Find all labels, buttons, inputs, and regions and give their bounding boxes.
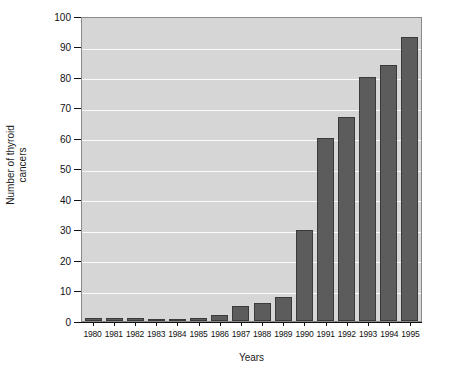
- x-axis-tick-label-1981: 1981: [103, 329, 124, 343]
- x-axis-tick-labels: 1980198119821983198419851986198719881989…: [82, 329, 421, 343]
- bar-1989: [275, 297, 292, 321]
- x-axis-tick-mark-1994: [379, 322, 400, 328]
- x-axis-tick-mark-1992: [336, 322, 357, 328]
- y-axis-tick-label: 40: [60, 195, 71, 206]
- bar-series: [82, 18, 421, 321]
- bar-1983: [148, 319, 165, 321]
- x-axis-tick-mark-1983: [146, 322, 167, 328]
- bar-slot-1994: [378, 18, 399, 321]
- bar-slot-1984: [167, 18, 188, 321]
- y-axis-tick-20: 20: [60, 255, 81, 267]
- y-axis-tick-label: 90: [60, 42, 71, 53]
- x-axis-tick-label-1983: 1983: [146, 329, 167, 343]
- x-axis-tick-label-1980: 1980: [82, 329, 103, 343]
- y-axis-tick-mark: [74, 169, 81, 170]
- x-axis-tick-label-1991: 1991: [315, 329, 336, 343]
- bar-slot-1987: [230, 18, 251, 321]
- x-axis-tick-mark-1985: [188, 322, 209, 328]
- bar-1991: [317, 138, 334, 321]
- bar-1982: [127, 318, 144, 321]
- x-axis-tick-label-1982: 1982: [124, 329, 145, 343]
- y-axis-tick-80: 80: [60, 72, 81, 84]
- bar-1984: [169, 319, 186, 321]
- x-axis-tick-label-1990: 1990: [294, 329, 315, 343]
- x-axis-tick-label-1995: 1995: [400, 329, 421, 343]
- y-axis-tick-label: 80: [60, 73, 71, 84]
- bar-1987: [232, 306, 249, 321]
- y-axis-tick-30: 30: [60, 225, 81, 237]
- x-axis-tick-mark-1987: [230, 322, 251, 328]
- x-axis-tick-mark-1988: [252, 322, 273, 328]
- y-axis-tick-90: 90: [60, 42, 81, 54]
- x-axis-tick-label-1986: 1986: [209, 329, 230, 343]
- x-axis-tick-label-1985: 1985: [188, 329, 209, 343]
- y-axis-tick-label: 70: [60, 103, 71, 114]
- y-axis-tick-label: 10: [60, 286, 71, 297]
- bar-slot-1989: [273, 18, 294, 321]
- bar-1980: [85, 318, 102, 321]
- y-axis-tick-mark: [74, 47, 81, 48]
- y-axis-tick-label: 30: [60, 225, 71, 236]
- bar-slot-1988: [252, 18, 273, 321]
- y-axis-tick-100: 100: [54, 11, 81, 23]
- y-axis-tick-mark: [74, 200, 81, 201]
- y-axis-title: Number of thyroid cancers: [0, 0, 34, 330]
- y-axis-tick-mark: [74, 230, 81, 231]
- bar-slot-1981: [104, 18, 125, 321]
- bar-1985: [190, 318, 207, 321]
- x-axis-tick-mark-1989: [273, 322, 294, 328]
- x-axis-tick-mark-1984: [167, 322, 188, 328]
- y-axis-tick-mark: [74, 108, 81, 109]
- bar-slot-1995: [399, 18, 420, 321]
- bar-slot-1983: [146, 18, 167, 321]
- bar-1988: [254, 303, 271, 321]
- bar-slot-1993: [357, 18, 378, 321]
- bar-slot-1991: [315, 18, 336, 321]
- y-axis-title-line1: Number of thyroid: [5, 125, 16, 204]
- y-axis-tick-labels: 0102030405060708090100: [34, 17, 81, 322]
- y-axis-tick-70: 70: [60, 103, 81, 115]
- y-axis-tick-60: 60: [60, 133, 81, 145]
- bar-1986: [211, 315, 228, 321]
- x-axis-tick-label-1987: 1987: [230, 329, 251, 343]
- bar-1990: [296, 230, 313, 322]
- y-axis-tick-label: 60: [60, 134, 71, 145]
- x-axis-ticks: [82, 322, 421, 328]
- y-axis-title-line2: cancers: [17, 125, 29, 204]
- x-axis-tick-mark-1980: [82, 322, 103, 328]
- x-axis-tick-mark-1990: [294, 322, 315, 328]
- y-axis-tick-label: 100: [54, 12, 71, 23]
- bar-slot-1982: [125, 18, 146, 321]
- x-axis-tick-label-1988: 1988: [252, 329, 273, 343]
- y-axis-tick-10: 10: [60, 286, 81, 298]
- plot-area: [81, 17, 422, 322]
- bar-slot-1980: [83, 18, 104, 321]
- x-axis-tick-label-1989: 1989: [273, 329, 294, 343]
- bar-chart-figure: Number of thyroid cancers 01020304050607…: [0, 0, 457, 382]
- bar-1981: [106, 318, 123, 321]
- y-axis-tick-mark: [74, 78, 81, 79]
- y-axis-tick-mark: [74, 17, 81, 18]
- y-axis-tick-label: 50: [60, 164, 71, 175]
- bar-1993: [359, 77, 376, 321]
- x-axis-tick-mark-1986: [209, 322, 230, 328]
- y-axis-tick-mark: [74, 261, 81, 262]
- bar-1992: [338, 117, 355, 321]
- bar-slot-1990: [294, 18, 315, 321]
- bar-slot-1985: [188, 18, 209, 321]
- x-axis-tick-mark-1982: [124, 322, 145, 328]
- x-axis-tick-label-1993: 1993: [357, 329, 378, 343]
- y-axis-tick-50: 50: [60, 164, 81, 176]
- y-axis-tick-mark: [74, 139, 81, 140]
- bar-1994: [380, 65, 397, 321]
- y-axis-tick-label: 0: [65, 317, 71, 328]
- x-axis-tick-mark-1991: [315, 322, 336, 328]
- x-axis-tick-mark-1995: [400, 322, 421, 328]
- x-axis-tick-label-1994: 1994: [379, 329, 400, 343]
- x-axis-tick-label-1984: 1984: [167, 329, 188, 343]
- bar-slot-1992: [336, 18, 357, 321]
- x-axis-tick-label-1992: 1992: [336, 329, 357, 343]
- x-axis-title: Years: [81, 352, 422, 363]
- y-axis-tick-label: 20: [60, 256, 71, 267]
- bar-1995: [401, 37, 418, 321]
